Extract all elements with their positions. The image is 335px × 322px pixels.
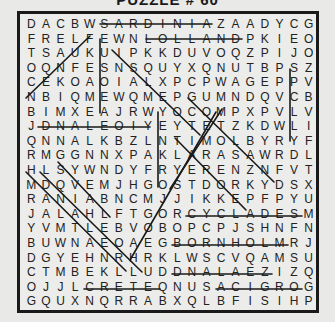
grid-cell[interactable]: I: [112, 75, 127, 90]
grid-cell[interactable]: I: [272, 294, 287, 309]
grid-cell[interactable]: D: [170, 265, 185, 280]
grid-cell[interactable]: N: [228, 90, 243, 105]
grid-cell[interactable]: E: [82, 105, 97, 120]
grid-cell[interactable]: O: [24, 280, 39, 295]
grid-cell[interactable]: F: [82, 32, 97, 47]
grid-cell[interactable]: Q: [126, 90, 141, 105]
grid-cell[interactable]: O: [214, 178, 229, 193]
grid-cell[interactable]: Y: [155, 105, 170, 120]
grid-cell[interactable]: B: [68, 265, 83, 280]
grid-cell[interactable]: L: [185, 32, 200, 47]
grid-cell[interactable]: R: [170, 207, 185, 222]
grid-cell[interactable]: S: [199, 251, 214, 266]
grid-cell[interactable]: Y: [126, 163, 141, 178]
grid-cell[interactable]: A: [199, 265, 214, 280]
grid-cell[interactable]: M: [39, 148, 54, 163]
grid-cell[interactable]: R: [272, 280, 287, 295]
grid-cell[interactable]: V: [68, 178, 83, 193]
grid-cell[interactable]: O: [24, 61, 39, 76]
grid-cell[interactable]: N: [53, 119, 68, 134]
grid-cell[interactable]: F: [287, 221, 302, 236]
grid-cell[interactable]: W: [141, 105, 156, 120]
grid-cell[interactable]: F: [301, 134, 316, 149]
grid-cell[interactable]: T: [126, 280, 141, 295]
grid-cell[interactable]: R: [39, 32, 54, 47]
grid-cell[interactable]: C: [126, 192, 141, 207]
grid-cell[interactable]: L: [68, 32, 83, 47]
grid-cell[interactable]: L: [228, 134, 243, 149]
grid-cell[interactable]: A: [243, 148, 258, 163]
grid-cell[interactable]: A: [228, 265, 243, 280]
grid-cell[interactable]: J: [228, 221, 243, 236]
grid-cell[interactable]: O: [301, 32, 316, 47]
grid-cell[interactable]: X: [185, 61, 200, 76]
grid-cell[interactable]: K: [141, 46, 156, 61]
grid-cell[interactable]: N: [126, 32, 141, 47]
grid-cell[interactable]: F: [272, 163, 287, 178]
grid-cell[interactable]: U: [39, 236, 54, 251]
grid-cell[interactable]: B: [24, 236, 39, 251]
grid-cell[interactable]: S: [39, 46, 54, 61]
grid-cell[interactable]: P: [185, 221, 200, 236]
grid-cell[interactable]: T: [301, 163, 316, 178]
grid-cell[interactable]: C: [24, 75, 39, 90]
grid-cell[interactable]: O: [243, 236, 258, 251]
grid-cell[interactable]: A: [199, 32, 214, 47]
grid-cell[interactable]: N: [185, 265, 200, 280]
grid-cell[interactable]: E: [141, 280, 156, 295]
grid-cell[interactable]: D: [272, 178, 287, 193]
grid-cell[interactable]: P: [199, 75, 214, 90]
grid-cell[interactable]: U: [228, 61, 243, 76]
grid-cell[interactable]: J: [39, 280, 54, 295]
grid-cell[interactable]: B: [24, 105, 39, 120]
grid-cell[interactable]: Q: [301, 265, 316, 280]
grid-cell[interactable]: E: [82, 265, 97, 280]
grid-cell[interactable]: O: [199, 105, 214, 120]
grid-cell[interactable]: D: [243, 90, 258, 105]
grid-cell[interactable]: X: [170, 294, 185, 309]
grid-cell[interactable]: M: [141, 192, 156, 207]
grid-cell[interactable]: E: [82, 61, 97, 76]
grid-cell[interactable]: V: [301, 75, 316, 90]
grid-cell[interactable]: O: [301, 46, 316, 61]
letter-grid[interactable]: DACBWSARDINIAZAADYCGFRELFEWNLOLLANDPKIEO…: [24, 17, 316, 309]
grid-cell[interactable]: I: [155, 17, 170, 32]
grid-cell[interactable]: A: [39, 207, 54, 222]
grid-cell[interactable]: K: [53, 75, 68, 90]
grid-cell[interactable]: Q: [155, 280, 170, 295]
grid-cell[interactable]: M: [214, 105, 229, 120]
grid-cell[interactable]: B: [155, 294, 170, 309]
grid-cell[interactable]: V: [301, 105, 316, 120]
grid-cell[interactable]: G: [185, 90, 200, 105]
grid-cell[interactable]: W: [112, 90, 127, 105]
grid-cell[interactable]: C: [287, 90, 302, 105]
grid-cell[interactable]: N: [82, 294, 97, 309]
grid-cell[interactable]: O: [185, 236, 200, 251]
grid-cell[interactable]: Y: [170, 119, 185, 134]
grid-cell[interactable]: I: [39, 105, 54, 120]
grid-cell[interactable]: U: [68, 46, 83, 61]
grid-cell[interactable]: P: [126, 46, 141, 61]
grid-cell[interactable]: P: [126, 148, 141, 163]
grid-cell[interactable]: R: [24, 148, 39, 163]
grid-cell[interactable]: L: [82, 221, 97, 236]
grid-cell[interactable]: B: [170, 236, 185, 251]
grid-cell[interactable]: Y: [53, 251, 68, 266]
grid-cell[interactable]: A: [112, 17, 127, 32]
grid-cell[interactable]: Q: [68, 90, 83, 105]
grid-cell[interactable]: V: [272, 90, 287, 105]
grid-cell[interactable]: R: [141, 251, 156, 266]
grid-cell[interactable]: K: [97, 265, 112, 280]
grid-cell[interactable]: F: [141, 163, 156, 178]
grid-cell[interactable]: N: [272, 221, 287, 236]
grid-cell[interactable]: E: [97, 32, 112, 47]
grid-cell[interactable]: A: [126, 75, 141, 90]
grid-cell[interactable]: R: [112, 294, 127, 309]
grid-cell[interactable]: M: [82, 90, 97, 105]
grid-cell[interactable]: E: [287, 32, 302, 47]
grid-cell[interactable]: M: [53, 105, 68, 120]
grid-cell[interactable]: E: [214, 163, 229, 178]
grid-cell[interactable]: G: [24, 294, 39, 309]
grid-cell[interactable]: R: [126, 17, 141, 32]
grid-cell[interactable]: T: [185, 119, 200, 134]
